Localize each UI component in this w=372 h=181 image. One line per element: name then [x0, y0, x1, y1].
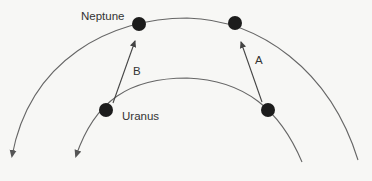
diagram-canvas: Neptune Uranus B A [0, 0, 372, 181]
vector-b-label: B [133, 65, 141, 77]
vector-b-arrow [113, 41, 135, 103]
vector-a-arrow [241, 42, 262, 102]
neptune-position-2 [228, 16, 242, 30]
uranus-position-1 [99, 103, 113, 117]
orbit-diagram: Neptune Uranus B A [0, 0, 372, 181]
vector-a-label: A [255, 54, 263, 66]
neptune-orbit [12, 18, 358, 160]
uranus-position-2 [261, 103, 275, 117]
neptune-label: Neptune [81, 10, 124, 22]
uranus-label: Uranus [122, 110, 159, 122]
neptune-position-1 [132, 17, 146, 31]
uranus-orbit [76, 78, 302, 162]
